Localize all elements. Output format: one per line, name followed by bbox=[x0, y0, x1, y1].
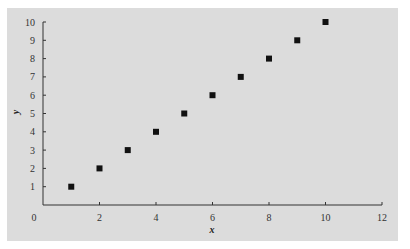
data-point-marker bbox=[238, 74, 244, 80]
x-tick-label: 8 bbox=[267, 212, 272, 223]
x-tick-label: 4 bbox=[154, 212, 159, 223]
data-point-marker bbox=[153, 129, 159, 135]
data-point-marker bbox=[68, 184, 74, 190]
y-tick-label: 2 bbox=[30, 163, 35, 174]
data-point-marker bbox=[266, 56, 272, 62]
data-point-marker bbox=[181, 111, 187, 117]
x-tick-label: 2 bbox=[97, 212, 102, 223]
x-tick-label: 0 bbox=[32, 212, 37, 223]
axes: 02468101212345678910 bbox=[25, 17, 387, 224]
data-point-marker bbox=[294, 37, 300, 43]
data-point-marker bbox=[323, 19, 329, 25]
y-axis-label: y bbox=[10, 109, 21, 115]
data-points bbox=[68, 19, 328, 190]
scatter-chart: 02468101212345678910 x y bbox=[0, 0, 410, 249]
y-tick-label: 3 bbox=[30, 145, 35, 156]
x-tick-label: 12 bbox=[377, 212, 387, 223]
data-point-marker bbox=[125, 147, 131, 153]
x-tick-label: 10 bbox=[321, 212, 331, 223]
x-axis-label: x bbox=[209, 224, 215, 235]
y-tick-label: 1 bbox=[30, 181, 35, 192]
x-tick-label: 6 bbox=[210, 212, 215, 223]
y-tick-label: 4 bbox=[30, 126, 35, 137]
data-point-marker bbox=[97, 165, 103, 171]
data-point-marker bbox=[210, 92, 216, 98]
y-tick-label: 7 bbox=[30, 71, 35, 82]
y-tick-label: 8 bbox=[30, 53, 35, 64]
y-tick-label: 10 bbox=[25, 17, 35, 28]
y-tick-label: 5 bbox=[30, 108, 35, 119]
y-tick-label: 9 bbox=[30, 35, 35, 46]
y-tick-label: 6 bbox=[30, 90, 35, 101]
